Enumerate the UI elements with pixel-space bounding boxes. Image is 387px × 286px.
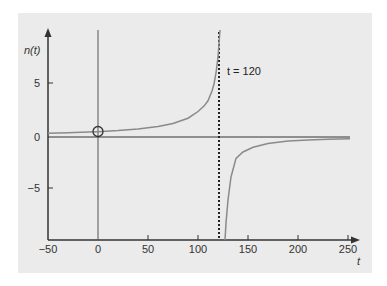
y-tick-label: 0 [34, 131, 40, 143]
x-tick-label: 150 [239, 243, 257, 255]
x-tick-label: 200 [289, 243, 307, 255]
curve-left-branch [48, 30, 220, 133]
y-tick-label: 5 [34, 77, 40, 89]
x-axis-label: t [357, 255, 361, 267]
x-tick-label: 250 [339, 243, 357, 255]
x-tick-label: −50 [39, 243, 58, 255]
chart-svg: n(t) t t = 120 5 0 −5 −50 0 50 100 150 2… [0, 0, 387, 286]
x-tick-label: 100 [189, 243, 207, 255]
y-tick-label: −5 [27, 182, 40, 194]
y-axis-arrow-icon [45, 28, 52, 37]
curve-right-branch [225, 139, 350, 240]
y-axis-label: n(t) [24, 44, 41, 56]
asymptote-label: t = 120 [227, 65, 261, 77]
x-tick-label: 0 [95, 243, 101, 255]
x-tick-label: 50 [142, 243, 154, 255]
